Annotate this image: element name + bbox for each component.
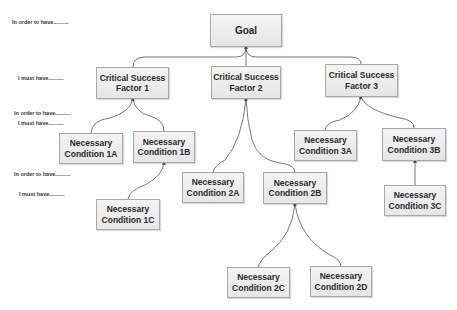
node-necessary-condition-2c: NecessaryCondition 2C (227, 267, 290, 298)
node-critical-success-factor-3: Critical SuccessFactor 3 (325, 64, 398, 97)
node-critical-success-factor-2: Critical SuccessFactor 2 (211, 66, 281, 99)
node-necessary-condition-1b: NecessaryCondition 1B (133, 131, 195, 163)
node-label-line1: Necessary (65, 138, 118, 148)
node-label: Goal (235, 25, 257, 37)
node-necessary-condition-3b: NecessaryCondition 3B (382, 128, 446, 161)
node-label-line2: Condition 3C (389, 201, 442, 211)
side-label-i-must-have: I must have.......... (18, 120, 64, 126)
node-label-line2: Factor 1 (100, 83, 166, 93)
prerequisite-tree-diagram: In order to have.......... I must have..… (0, 0, 457, 310)
node-label-line2: Condition 2C (232, 283, 285, 293)
node-label-line1: Necessary (389, 190, 442, 200)
node-necessary-condition-2a: NecessaryCondition 2A (182, 172, 244, 203)
node-label-line2: Condition 3A (299, 146, 352, 156)
node-necessary-condition-2d: NecessaryCondition 2D (310, 266, 372, 297)
side-label-i-must-have: I must have.......... (18, 75, 64, 81)
node-label-line2: Factor 2 (213, 83, 279, 93)
side-label-in-order-to-have: In order to have.......... (14, 110, 71, 116)
node-label-line2: Condition 2D (315, 282, 368, 292)
node-label-line2: Condition 1C (102, 215, 155, 225)
node-label-line2: Condition 2B (269, 188, 322, 198)
node-label-line1: Necessary (299, 135, 352, 145)
node-label-line2: Condition 1A (65, 149, 118, 159)
side-label-i-must-have: I must have.......... (19, 191, 65, 197)
node-label-line1: Necessary (388, 134, 441, 144)
node-necessary-condition-1c: NecessaryCondition 1C (96, 199, 160, 230)
node-necessary-condition-3a: NecessaryCondition 3A (294, 130, 357, 161)
node-label-line1: Critical Success (100, 73, 166, 83)
node-label-line2: Factor 3 (329, 81, 395, 91)
node-label-line1: Necessary (269, 178, 322, 188)
node-label-line1: Critical Success (213, 72, 279, 82)
node-label-line1: Necessary (232, 272, 285, 282)
node-critical-success-factor-1: Critical SuccessFactor 1 (96, 67, 169, 99)
node-goal: Goal (210, 14, 282, 47)
node-label-line1: Necessary (138, 137, 191, 147)
node-necessary-condition-3c: NecessaryCondition 3C (384, 185, 446, 216)
node-label-line2: Condition 2A (187, 188, 240, 198)
side-label-in-order-to-have: In order to have.......... (14, 171, 71, 177)
node-label-line1: Necessary (187, 177, 240, 187)
node-necessary-condition-1a: NecessaryCondition 1A (59, 133, 123, 164)
node-label-line2: Condition 1B (138, 147, 191, 157)
node-label-line1: Critical Success (329, 70, 395, 80)
node-label-line2: Condition 3B (388, 145, 441, 155)
side-label-in-order-to-have: In order to have.......... (12, 19, 69, 25)
node-label-line1: Necessary (102, 204, 155, 214)
node-label-line1: Necessary (315, 271, 368, 281)
node-necessary-condition-2b: NecessaryCondition 2B (263, 172, 327, 204)
